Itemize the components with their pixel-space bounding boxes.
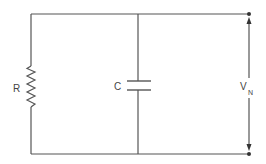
circuit-diagram: R C V N <box>0 0 266 164</box>
resistor-label: R <box>13 83 20 94</box>
capacitor-label: C <box>114 81 121 92</box>
arrow-up-icon <box>247 17 252 24</box>
voltage-arrow <box>247 17 252 151</box>
arrow-down-icon <box>247 144 252 151</box>
resistor <box>27 14 35 154</box>
capacitor <box>127 14 151 154</box>
bottom-terminal <box>247 152 251 156</box>
top-terminal <box>247 12 251 16</box>
voltage-subscript: N <box>248 89 253 96</box>
voltage-label: V <box>240 81 247 92</box>
